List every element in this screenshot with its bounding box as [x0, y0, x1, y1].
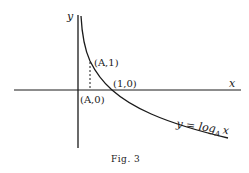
curve-label: y = logAx — [174, 117, 230, 139]
y-axis-label: y — [66, 10, 74, 23]
x-axis-label: x — [229, 77, 236, 90]
point-label-10: (1,0) — [113, 78, 137, 89]
point-label-a0: (A,0) — [80, 94, 105, 105]
point-label-a1: (A,1) — [94, 57, 119, 68]
log-graph: y x (A,1) (1,0) (A,0) y = logAx Fig. 3 — [0, 0, 249, 173]
figure-caption: Fig. 3 — [111, 154, 140, 164]
log-curve — [81, 16, 228, 138]
